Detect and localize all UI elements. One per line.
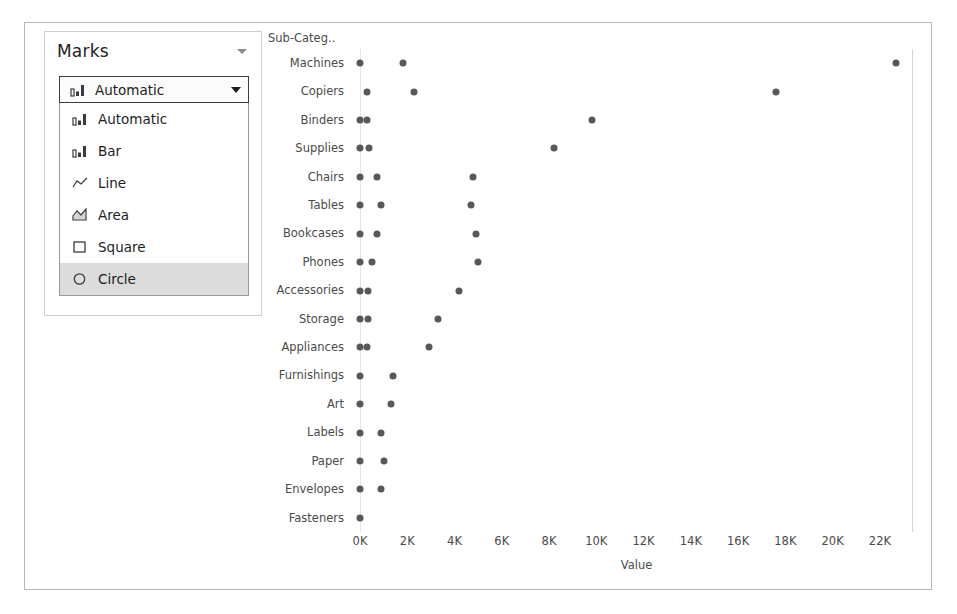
x-axis-title: Value <box>360 558 913 572</box>
data-point[interactable] <box>357 173 364 180</box>
data-point[interactable] <box>357 287 364 294</box>
x-axis-tick-labels: 0K2K4K6K8K10K12K14K16K18K20K22K <box>360 534 913 556</box>
x-axis-tick-label: 12K <box>632 534 654 548</box>
data-point[interactable] <box>357 401 364 408</box>
menu-item-line[interactable]: Line <box>60 167 248 199</box>
y-axis-tick-label: Supplies <box>268 134 352 162</box>
data-point[interactable] <box>368 259 375 266</box>
y-axis-tick-label: Chairs <box>268 163 352 191</box>
chevron-down-icon[interactable] <box>237 49 247 54</box>
y-axis-tick-label: Furnishings <box>268 361 352 389</box>
data-point[interactable] <box>366 145 373 152</box>
x-axis-tick-label: 14K <box>680 534 702 548</box>
y-axis-tick-label: Tables <box>268 191 352 219</box>
data-point[interactable] <box>364 117 371 124</box>
y-axis-tick-label: Bookcases <box>268 219 352 247</box>
mark-type-dropdown-menu[interactable]: Automatic Bar Line <box>59 103 249 296</box>
y-axis-tick-label: Art <box>268 390 352 418</box>
data-point[interactable] <box>373 230 380 237</box>
data-point[interactable] <box>470 173 477 180</box>
data-point[interactable] <box>357 145 364 152</box>
x-axis-tick-label: 22K <box>869 534 891 548</box>
y-axis-field-label: Sub-Categ.. <box>268 31 335 45</box>
data-point[interactable] <box>364 88 371 95</box>
menu-item-circle[interactable]: Circle <box>60 263 248 295</box>
x-axis-tick-label: 18K <box>774 534 796 548</box>
data-point[interactable] <box>357 259 364 266</box>
data-point[interactable] <box>357 344 364 351</box>
y-axis-tick-labels: MachinesCopiersBindersSuppliesChairsTabl… <box>268 49 352 532</box>
mark-type-selected-value: Automatic <box>95 82 224 98</box>
data-point[interactable] <box>456 287 463 294</box>
y-axis-tick-label: Binders <box>268 106 352 134</box>
data-point[interactable] <box>475 259 482 266</box>
data-point[interactable] <box>357 514 364 521</box>
square-mark-icon <box>72 240 89 254</box>
marks-card-header[interactable]: Marks <box>45 32 261 70</box>
data-point[interactable] <box>378 486 385 493</box>
y-axis-tick-label: Fasteners <box>268 504 352 532</box>
x-axis-tick-label: 0K <box>353 534 368 548</box>
area-mark-icon <box>72 208 89 222</box>
x-axis-tick-label: 10K <box>585 534 607 548</box>
data-point[interactable] <box>357 315 364 322</box>
menu-item-label: Automatic <box>98 111 167 127</box>
data-point[interactable] <box>357 372 364 379</box>
marks-card: Marks Automatic <box>44 31 262 316</box>
data-point[interactable] <box>357 457 364 464</box>
data-point[interactable] <box>357 429 364 436</box>
data-point[interactable] <box>588 117 595 124</box>
data-point[interactable] <box>365 287 372 294</box>
x-axis-tick-label: 8K <box>542 534 557 548</box>
data-point[interactable] <box>357 230 364 237</box>
data-point[interactable] <box>357 202 364 209</box>
y-axis-tick-label: Phones <box>268 248 352 276</box>
data-point[interactable] <box>893 60 900 67</box>
plot-axis-line-right <box>912 49 913 532</box>
data-point[interactable] <box>373 173 380 180</box>
data-point[interactable] <box>357 60 364 67</box>
data-point[interactable] <box>411 88 418 95</box>
data-point[interactable] <box>550 145 557 152</box>
data-point[interactable] <box>772 88 779 95</box>
mark-type-dropdown-button[interactable] <box>224 77 248 102</box>
x-axis-tick-label: 4K <box>447 534 462 548</box>
menu-item-label: Square <box>98 239 146 255</box>
data-point[interactable] <box>390 372 397 379</box>
y-axis-tick-label: Paper <box>268 447 352 475</box>
chart-area: Sub-Categ.. MachinesCopiersBindersSuppli… <box>268 31 913 571</box>
menu-item-label: Circle <box>98 271 136 287</box>
data-point[interactable] <box>378 429 385 436</box>
data-point[interactable] <box>378 202 385 209</box>
menu-item-area[interactable]: Area <box>60 199 248 231</box>
plot-canvas <box>360 49 913 532</box>
data-point[interactable] <box>357 486 364 493</box>
y-axis-tick-label: Appliances <box>268 333 352 361</box>
bar-mark-icon <box>70 83 87 97</box>
y-axis-tick-label: Storage <box>268 305 352 333</box>
data-point[interactable] <box>472 230 479 237</box>
data-point[interactable] <box>399 60 406 67</box>
circle-mark-icon <box>72 272 89 286</box>
menu-item-bar[interactable]: Bar <box>60 135 248 167</box>
data-point[interactable] <box>380 457 387 464</box>
menu-item-square[interactable]: Square <box>60 231 248 263</box>
screenshot-root: Marks Automatic <box>0 0 957 614</box>
menu-item-automatic[interactable]: Automatic <box>60 103 248 135</box>
marks-card-title: Marks <box>57 41 237 61</box>
data-point[interactable] <box>387 401 394 408</box>
mark-type-combobox[interactable]: Automatic <box>59 76 249 103</box>
y-axis-tick-label: Envelopes <box>268 475 352 503</box>
x-axis-tick-label: 16K <box>727 534 749 548</box>
data-point[interactable] <box>434 315 441 322</box>
data-point[interactable] <box>365 315 372 322</box>
y-axis-tick-label: Labels <box>268 418 352 446</box>
bar-mark-icon <box>72 144 89 158</box>
data-point[interactable] <box>425 344 432 351</box>
bar-mark-icon <box>72 112 89 126</box>
menu-item-label: Bar <box>98 143 121 159</box>
data-point[interactable] <box>357 117 364 124</box>
data-point[interactable] <box>364 344 371 351</box>
data-point[interactable] <box>468 202 475 209</box>
x-axis-tick-label: 20K <box>822 534 844 548</box>
